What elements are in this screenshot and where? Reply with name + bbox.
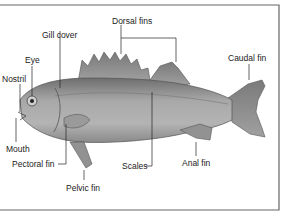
- label-anal-fin: Anal fin: [182, 158, 210, 168]
- caudal-fin: [228, 80, 265, 137]
- label-gill-cover: Gill cover: [42, 30, 77, 40]
- label-pectoral-fin: Pectoral fin: [12, 159, 55, 169]
- label-nostril: Nostril: [2, 74, 26, 84]
- pelvic-fin: [70, 142, 92, 168]
- fish-anatomy-diagram: Dorsal fins Gill cover Eye Nostril Cauda…: [0, 0, 293, 216]
- dorsal-fin-spiny: [78, 52, 150, 82]
- label-pelvic-fin: Pelvic fin: [66, 183, 100, 193]
- label-eye: Eye: [25, 55, 40, 65]
- label-scales: Scales: [122, 161, 148, 171]
- label-caudal-fin: Caudal fin: [228, 53, 266, 63]
- label-dorsal-fins: Dorsal fins: [112, 16, 152, 26]
- label-mouth: Mouth: [6, 144, 30, 154]
